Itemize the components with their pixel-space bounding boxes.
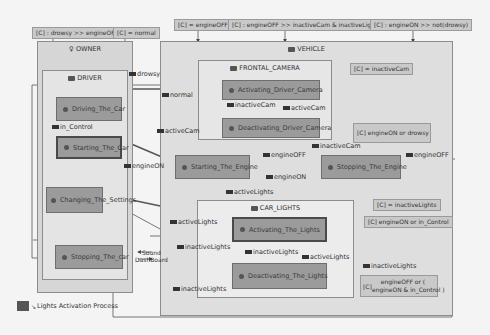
state-deactivating-the-lights[interactable]: Deactivating_The_Lights [232,263,327,289]
state-driving-the-car[interactable]: Driving_The_Car [56,97,122,121]
label-activecam-2: activeCam [283,104,326,112]
person-icon: ♀ [69,45,76,53]
driver-title: DRIVER [43,74,127,82]
vehicle-title: VEHICLE [161,45,452,53]
condition-engineoff: [C] = engineOFF [174,19,232,31]
label-activecam: activeCam [157,127,200,135]
state-icon [229,88,234,93]
label-engineon-1: engineON [124,162,164,170]
label-activelights-1: activeLights [226,188,273,196]
label-inactivecam-1: inactiveCam [227,101,276,109]
state-icon [51,198,56,203]
state-icon [62,255,67,260]
condition-inactivelights: [C] = inactiveLights [373,199,441,211]
label-sound-dashboard: SoundDashBoard [135,249,168,263]
label-engineon-2: engineON [266,173,306,181]
condition-drowsy-engineoff: [C] : drowsy >> engineOFF [32,27,122,39]
condition-engineon-or-drowsy: [C] engineON or drowsy [353,123,431,143]
region-icon [251,206,258,211]
legend-label: Lights Activation Process [37,302,118,310]
state-icon [229,126,234,131]
state-icon [328,165,333,170]
label-inactivelights-4: inactiveLights [363,262,416,270]
state-stopping-the-engine[interactable]: Stopping_The_Engine [321,155,401,179]
label-inactivecam-2: inactiveCam [312,142,361,150]
condition-engineoff-inactive: [C] : engineOFF >> inactiveCam & inactiv… [228,19,384,31]
state-icon [64,145,69,150]
label-activelights-3: activeLights [302,253,349,261]
label-inactivelights-2: inactiveLights [245,248,298,256]
state-icon [63,107,68,112]
label-normal: normal [162,91,193,99]
legend: ↘ Lights Activation Process [17,301,118,311]
legend-swatch [17,301,29,311]
condition-engineon-notdrowsy: [C] : engineON >> not(drowsy) [370,19,472,31]
region-icon [68,76,75,81]
link-icon: ↘ [31,303,36,310]
region-icon [288,47,295,52]
condition-normal: [C] = normal [113,27,160,39]
label-in-control: in_Control [52,123,93,131]
state-activating-driver-camera[interactable]: Activating_Driver_Camera [222,80,320,100]
car-lights-title: CAR_LIGHTS [198,204,353,212]
label-engineoff-1: engineOFF [263,151,306,159]
frontal-camera-title: FRONTAL_CAMERA [199,64,331,72]
state-deactivating-driver-camera[interactable]: Deactivating_Driver_Camera [222,118,320,138]
state-starting-the-car[interactable]: Starting_The_Car [56,136,122,159]
condition-inactivecam: [C] = inactiveCam [350,63,413,75]
state-icon [240,227,245,232]
state-starting-the-engine[interactable]: Starting_The_Engine [175,155,250,179]
condition-engineon-or-incontrol: [C] engineON or in_Control [364,216,453,228]
label-activelights-2: activeLights [170,218,217,226]
state-changing-the-settings[interactable]: Changing_The_Settings [46,187,103,213]
condition-engineoff-or-combo: [C] engineOFF or ( engineON & in_Control… [360,275,438,297]
owner-title: ♀ OWNER [38,45,132,53]
label-inactivelights-3: inactiveLights [173,285,226,293]
state-activating-the-lights[interactable]: Activating_The_Lights [232,217,327,242]
state-icon [239,274,244,279]
label-inactivelights-1: inactiveLights [177,243,230,251]
state-icon [182,165,187,170]
state-stopping-the-car[interactable]: Stopping_The_car [55,245,123,269]
region-icon [230,66,237,71]
label-engineoff-2: engineOFF [406,151,449,159]
label-drowsy: drowsy [129,70,160,78]
